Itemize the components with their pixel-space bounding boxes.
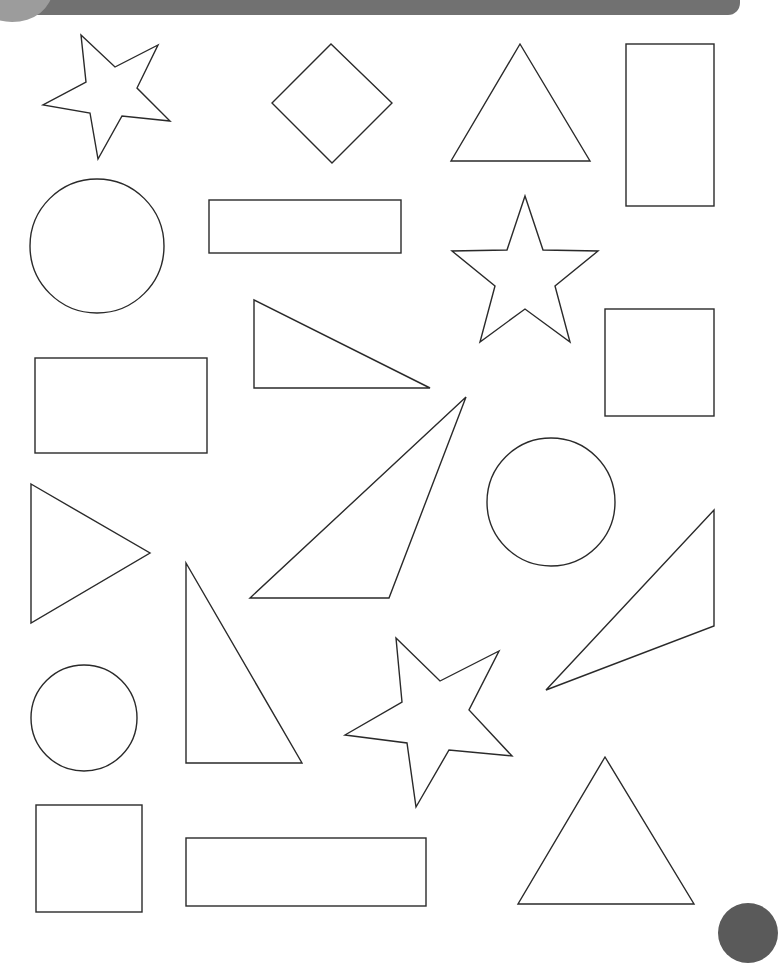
circle-shape-12: [487, 438, 615, 566]
diamond-shape-2: [272, 44, 392, 163]
triangle-shape-3: [451, 44, 590, 161]
rectangle-shape-10: [35, 358, 207, 453]
rectangle-shape-20: [186, 838, 426, 906]
star-shape-7: [452, 196, 598, 342]
rectangle-shape-4: [626, 44, 714, 206]
shape-layer: [30, 35, 714, 912]
triangle-shape-18: [518, 757, 694, 904]
circle-shape-5: [30, 179, 164, 313]
square-shape-9: [605, 309, 714, 416]
circle-shape-16: [31, 665, 137, 771]
triangle-shape-11: [250, 397, 466, 598]
triangle-shape-13: [31, 484, 150, 623]
triangle-shape-8: [254, 300, 430, 388]
rectangle-shape-6: [209, 200, 401, 253]
star-shape-1: [43, 35, 170, 159]
square-shape-19: [36, 805, 142, 912]
star-shape-17: [345, 638, 512, 807]
